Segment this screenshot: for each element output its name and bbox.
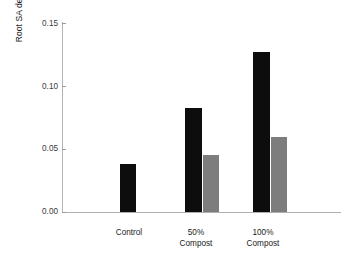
y-tick-mark: [62, 149, 66, 150]
bar-50-compost-black: [185, 108, 202, 212]
y-tick-mark: [62, 86, 66, 87]
x-axis-label-line: Compost: [228, 239, 298, 250]
x-axis-label-line: Control: [94, 228, 164, 239]
x-axis-label-2: 100%Compost: [228, 228, 298, 249]
y-axis-title: Root SA density (cm2 cm−3): [12, 0, 26, 64]
y-tick-mark: [62, 23, 66, 24]
bar-100-compost-gray: [271, 137, 287, 212]
y-tick-label: 0.10: [28, 82, 58, 91]
bar-control-black: [120, 164, 136, 212]
x-axis-label-line: 50%: [161, 228, 231, 239]
x-axis-line: [62, 212, 341, 213]
x-axis-label-0: Control: [94, 228, 164, 239]
y-tick-mark: [62, 212, 66, 213]
y-axis-title-prefix: Root SA density (cm: [14, 0, 24, 42]
x-axis-label-1: 50%Compost: [161, 228, 231, 249]
y-tick-label: 0.05: [28, 144, 58, 153]
bar-50-compost-gray: [203, 155, 219, 212]
bar-chart: Root SA density (cm2 cm−3) 0.000.050.100…: [0, 0, 364, 263]
bar-100-compost-black: [253, 52, 270, 212]
y-tick-label: 0.00: [28, 207, 58, 216]
y-axis-line: [62, 22, 63, 212]
x-axis-label-line: 100%: [228, 228, 298, 239]
x-axis-label-line: Compost: [161, 239, 231, 250]
y-tick-label: 0.15: [28, 19, 58, 28]
